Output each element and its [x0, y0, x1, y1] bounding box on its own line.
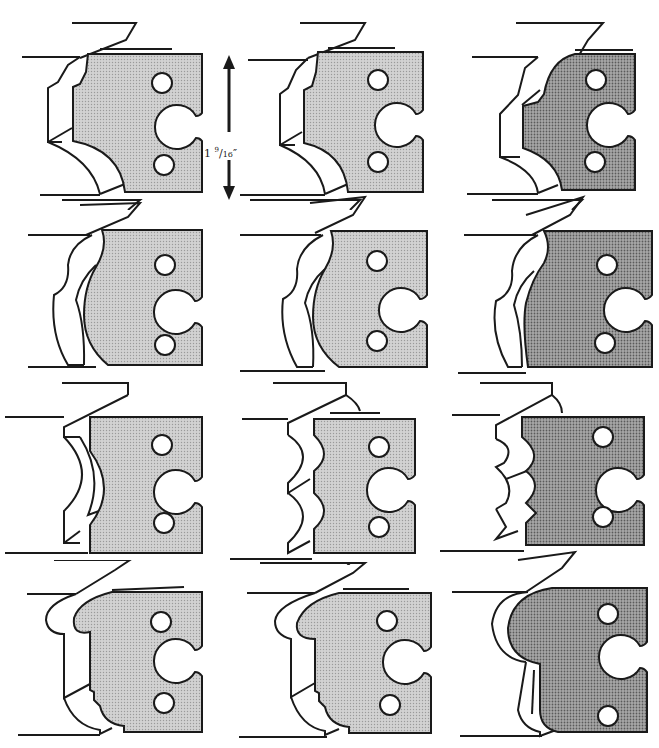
dimension-denominator: 16 [223, 150, 233, 159]
profile-r1c3 [440, 10, 659, 210]
profile-r3c1 [0, 375, 220, 565]
dimension-whole: 1 [204, 147, 211, 160]
profile-r2c1 [0, 195, 220, 385]
profile-r4c2 [235, 555, 455, 748]
dimension-unit: ″ [233, 147, 237, 160]
profile-r2c3 [440, 195, 659, 385]
profile-r4c1 [0, 560, 220, 748]
profile-r1c2 [240, 10, 460, 210]
dimension-numerator: 9 [215, 146, 219, 154]
profile-r3c3 [440, 375, 659, 565]
profile-r3c2 [230, 375, 450, 565]
profile-r4c3 [440, 550, 659, 748]
profile-r1c1 [0, 10, 220, 210]
profile-r2c2 [235, 195, 455, 385]
dimension-label: 1 9/16″ [203, 146, 238, 160]
